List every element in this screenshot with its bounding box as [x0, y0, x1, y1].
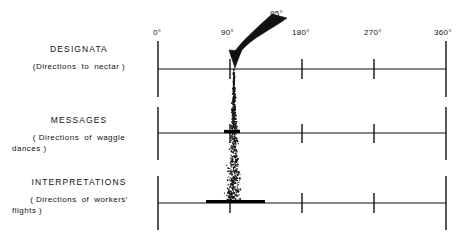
scatter-dot: [230, 173, 231, 174]
scatter-dot: [232, 143, 233, 144]
scatter-dot: [232, 134, 233, 135]
scatter-dot: [233, 168, 234, 169]
scatter-dot: [240, 189, 242, 191]
scatter-dot: [230, 184, 232, 186]
scatter-dot: [230, 161, 232, 163]
scatter-dot: [235, 179, 236, 180]
scatter-dot: [232, 165, 233, 166]
scatter-dot: [226, 165, 227, 166]
scatter-dot: [230, 137, 231, 138]
scatter-dot: [233, 143, 234, 144]
scatter-dot: [233, 102, 235, 104]
scatter-dot: [228, 189, 230, 191]
scatter-dot: [236, 194, 237, 195]
scatter-dot: [238, 194, 239, 195]
scatter-dot: [235, 183, 236, 184]
scatter-dot: [238, 181, 239, 182]
scatter-dot: [235, 133, 236, 134]
scatter-dot: [231, 140, 232, 141]
scatter-dot: [233, 156, 234, 157]
scatter-dot: [233, 152, 234, 153]
scatter-dot: [231, 172, 232, 173]
scatter-dot: [232, 158, 233, 159]
scatter-dot: [236, 192, 237, 193]
scatter-dot: [237, 163, 239, 165]
scatter-dot: [235, 156, 237, 158]
scatter-dot: [232, 115, 233, 116]
scatter-dot: [231, 194, 232, 195]
scatter-dot: [235, 169, 236, 170]
scatter-dot: [230, 177, 231, 178]
scatter-dot: [234, 112, 236, 114]
scatter-dot: [237, 195, 238, 196]
scatter-dot: [233, 186, 235, 188]
scatter-dot: [235, 110, 236, 111]
scatter-dot: [233, 144, 234, 145]
scatter-dot: [233, 198, 234, 199]
scatter-dot: [232, 146, 233, 147]
scatter-dot: [235, 106, 236, 107]
scatter-dot: [237, 183, 238, 184]
scatter-dot: [232, 181, 233, 182]
scatter-dot: [235, 149, 236, 150]
scatter-dot: [231, 197, 232, 198]
scatter-dot: [230, 155, 231, 156]
scatter-dot: [235, 145, 236, 146]
scatter-dot: [232, 110, 234, 112]
scatter-dot: [237, 166, 238, 167]
scatter-dot: [230, 159, 231, 160]
scatter-dot: [233, 150, 234, 151]
scatter-dot: [231, 137, 232, 138]
scatter-dot: [235, 175, 236, 176]
scatter-dot: [228, 176, 229, 177]
scatter-dot: [234, 161, 235, 162]
bee-communication-figure: DESIGNATA (Directionstonectar ) MESSAGES…: [0, 0, 476, 238]
scatter-dot: [231, 192, 232, 193]
scatter-dot: [236, 121, 237, 122]
scatter-dot: [236, 126, 238, 128]
scatter-dot: [234, 148, 236, 150]
scatter-dot: [228, 199, 229, 200]
scatter-dot: [229, 193, 231, 195]
scatter-dot: [229, 187, 230, 188]
scatter-dot: [230, 180, 231, 181]
scatter-dot: [235, 186, 236, 187]
scatter-dot: [233, 107, 234, 108]
scatter-dot: [239, 198, 241, 200]
scatter-dot: [234, 183, 236, 185]
scatter-dot: [231, 125, 232, 126]
scatter-dot: [230, 141, 231, 142]
scatter-dot: [234, 69, 235, 70]
scatter-dot: [234, 136, 235, 137]
scatter-dot: [229, 148, 231, 150]
scatter-dot: [238, 143, 239, 144]
scatter-dot: [234, 193, 235, 194]
scatter-dot: [230, 147, 231, 148]
scatter-dot: [236, 168, 238, 170]
scatter-dot: [232, 183, 234, 185]
scatter-dot: [234, 166, 236, 168]
scatter-dot: [234, 153, 235, 154]
scatter-dot: [234, 84, 235, 85]
scatter-dot: [236, 138, 238, 140]
scatter-dot: [234, 76, 235, 77]
scatter-dot: [234, 78, 235, 79]
scatter-dot: [235, 157, 236, 158]
scatter-dot: [235, 182, 236, 183]
scatter-dot: [239, 179, 240, 180]
scatter-dot: [235, 170, 237, 172]
scatter-dot: [234, 124, 235, 125]
scatter-dot: [234, 105, 235, 106]
scatter-dot: [232, 196, 233, 197]
scatter-dot: [233, 147, 234, 148]
scatter-dot: [233, 70, 234, 71]
scatter-dot: [237, 174, 238, 175]
scatter-dot: [235, 161, 237, 163]
scatter-dot: [236, 177, 238, 179]
scatter-dot: [227, 184, 228, 185]
scatter-dot: [231, 102, 233, 104]
scatter-dot: [233, 180, 234, 181]
scatter-dot: [234, 114, 235, 115]
scatter-dot: [233, 82, 234, 83]
scatter-dot: [232, 174, 233, 175]
